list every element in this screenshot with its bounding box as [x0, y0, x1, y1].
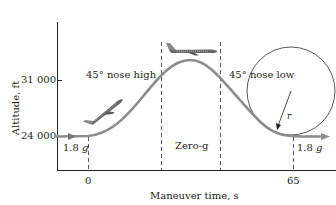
phase-label-nose-low: 45° nose low	[229, 70, 294, 80]
x-tick-label-65: 65	[287, 176, 300, 186]
load-factor-left: 1.8 g	[63, 143, 89, 153]
x-axis-label: Maneuver time, s	[150, 191, 239, 201]
exit-arrow-icon	[321, 133, 330, 140]
load-factor-left-value: 1.8	[63, 142, 79, 153]
entry-arrow-icon	[68, 133, 76, 140]
phase-label-nose-high: 45° nose high	[86, 70, 156, 80]
load-factor-right: 1.8 g	[297, 143, 323, 153]
load-factor-right-unit: g	[316, 142, 322, 153]
y-tick-label-31000: 31 000	[21, 75, 56, 85]
y-tick-label-24000: 24 000	[21, 131, 56, 141]
load-factor-left-unit: g	[82, 142, 88, 153]
airplane-climbing-icon	[83, 94, 126, 131]
airplane-level-icon	[166, 43, 217, 56]
x-tick-label-0: 0	[85, 176, 91, 186]
y-axis-label: Altitude, ft	[11, 78, 21, 138]
diagram-canvas	[0, 0, 336, 205]
phase-label-zero-g: Zero-g	[175, 141, 208, 151]
radius-label: r	[287, 112, 291, 121]
load-factor-right-value: 1.8	[297, 142, 313, 153]
radius-arrowhead	[276, 123, 281, 130]
